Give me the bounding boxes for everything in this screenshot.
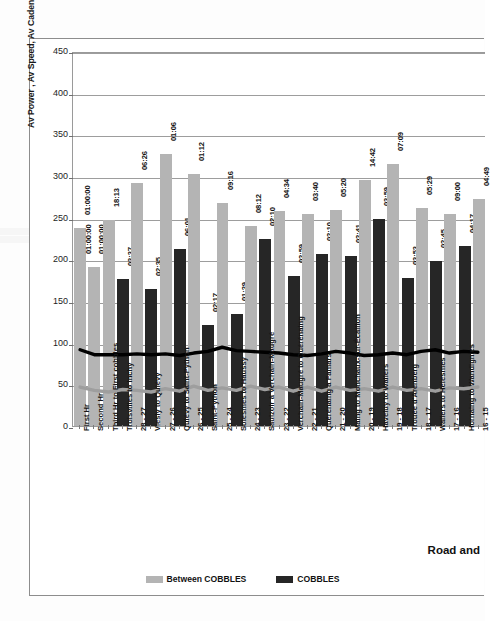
- y-tick-label: 50: [38, 379, 68, 389]
- x-tick-mark: [464, 425, 465, 429]
- bar-group: 01:00:0001:00:0001:00:0018:1303:3706:260…: [73, 53, 485, 426]
- chart-legend: Between COBBLESCOBBLES: [0, 571, 485, 587]
- x-axis-label: Haveluy to Wallers: [381, 364, 390, 431]
- x-axis-label: Troisvilles to Inchy: [125, 363, 134, 431]
- x-tick-mark: [421, 425, 422, 429]
- x-axis-label: 26 - 25: [196, 407, 205, 431]
- x-tick-mark: [435, 425, 436, 429]
- x-tick-mark: [222, 425, 223, 429]
- x-tick-mark: [449, 425, 450, 429]
- x-axis-caption: Road and: [428, 544, 480, 556]
- x-tick-mark: [207, 425, 208, 429]
- x-tick-mark: [350, 425, 351, 429]
- x-tick-mark: [321, 425, 322, 429]
- x-tick-mark: [264, 425, 265, 429]
- x-axis-label: Saulzoir à Verchain-Maugré: [267, 332, 276, 431]
- x-tick-mark: [478, 425, 479, 429]
- x-axis-label: 21 - 20: [338, 407, 347, 431]
- legend-swatch: [276, 576, 293, 583]
- x-axis-label: Third Hr to First cobbles: [111, 343, 120, 431]
- y-tick-label: 100: [38, 338, 68, 348]
- bar-slot: 02:35: [144, 53, 158, 426]
- bar-slot: 01:00:0001:00:00: [73, 53, 87, 426]
- x-tick-mark: [335, 425, 336, 429]
- x-axis-label: Second Hr: [96, 393, 105, 431]
- x-tick-mark: [392, 425, 393, 429]
- x-axis-labels: First HrSecond HrThird Hr to First cobbl…: [72, 429, 485, 559]
- y-tick-label: 200: [38, 254, 68, 264]
- x-axis-label: Quiévy to Saint-Python: [182, 347, 191, 431]
- legend-swatch: [146, 576, 163, 583]
- x-tick-mark: [378, 425, 379, 429]
- x-axis-label: 23 - 22: [282, 407, 291, 431]
- x-axis-label: First Hr: [82, 404, 91, 431]
- x-tick-mark: [193, 425, 194, 429]
- x-tick-mark: [93, 425, 94, 429]
- x-axis-label: Trouée d'Arenberg: [410, 364, 419, 431]
- legend-item[interactable]: Between COBBLES: [146, 574, 247, 584]
- legend-label: COBBLES: [297, 574, 339, 584]
- x-tick-mark: [364, 425, 365, 429]
- bar-value-label: 04:49: [482, 167, 491, 186]
- x-tick-mark: [307, 425, 308, 429]
- x-axis-label: 17 - 16: [452, 407, 461, 431]
- x-axis-label: 16 - 15: [481, 407, 490, 431]
- x-tick-mark: [293, 425, 294, 429]
- x-tick-mark: [250, 425, 251, 429]
- legend-item[interactable]: COBBLES: [276, 574, 339, 584]
- x-axis-label: Saint-Python: [210, 384, 219, 431]
- bar-slot: 01:06: [158, 53, 172, 426]
- legend-label: Between COBBLES: [167, 574, 247, 584]
- x-tick-mark: [122, 425, 123, 429]
- x-axis-label: 22 - 21: [310, 407, 319, 431]
- x-axis-label: Viesly to Quiévy: [153, 372, 162, 431]
- x-tick-mark: [108, 425, 109, 429]
- x-tick-mark: [407, 425, 408, 429]
- y-tick-label: 150: [38, 296, 68, 306]
- x-axis-label: Maing to Monchaux-sur-Écaillon: [353, 314, 362, 431]
- x-axis-label: Wallers to Hélesmes: [438, 357, 447, 431]
- bar-slot: 01:00:00: [87, 53, 101, 426]
- x-tick-mark: [279, 425, 280, 429]
- y-tick-label: 0: [38, 421, 68, 431]
- y-tick-label: 300: [38, 171, 68, 181]
- y-axis-title-text: Av Power , Av Speed, Av Cadence Per Sect…: [26, 0, 36, 128]
- bar-slot: 02:17: [201, 53, 215, 426]
- y-tick-label: 450: [38, 46, 68, 56]
- y-tick-label: 400: [38, 88, 68, 98]
- x-axis-label: 28 - 27: [139, 407, 148, 431]
- x-axis-label: Solesmes to Haussy: [239, 357, 248, 431]
- x-axis-label: 20 - 19: [367, 407, 376, 431]
- x-axis-label: Verchain-Maugré to Quérénaing: [296, 316, 305, 431]
- y-axis-title: Av Power , Av Speed, Av Cadence Per Sect…: [26, 0, 36, 128]
- x-tick-mark: [179, 425, 180, 429]
- x-tick-mark: [150, 425, 151, 429]
- x-tick-mark: [136, 425, 137, 429]
- x-tick-mark: [79, 425, 80, 429]
- x-axis-label: 19 - 18: [395, 407, 404, 431]
- y-tick-label: 350: [38, 129, 68, 139]
- bar[interactable]: [74, 228, 86, 426]
- x-axis-label: Quérénaing à Famars: [324, 353, 333, 431]
- x-tick-mark: [236, 425, 237, 429]
- x-axis-label: 25 - 24: [225, 407, 234, 431]
- x-axis-label: 27 - 26: [168, 407, 177, 431]
- x-axis-label: 24 - 23: [253, 407, 262, 431]
- x-axis-label: Hornaing to Wandignies: [467, 344, 476, 431]
- x-tick-mark: [165, 425, 166, 429]
- x-axis-label: 18 - 17: [424, 407, 433, 431]
- y-tick-label: 250: [38, 213, 68, 223]
- bar-slot: 09:16: [215, 53, 229, 426]
